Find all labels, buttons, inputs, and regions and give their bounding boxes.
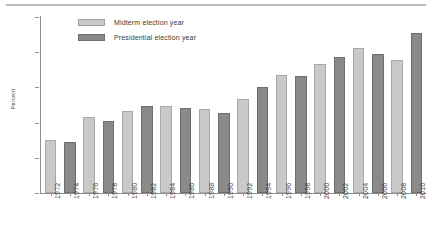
x-tick-mark: [128, 193, 129, 196]
top-divider-rule: [6, 4, 426, 6]
x-tick-label-2004: 2004: [362, 183, 369, 199]
chart-legend: Midterm election year Presidential elect…: [78, 16, 196, 46]
x-tick-label-1988: 1988: [208, 183, 215, 199]
x-tick-mark: [282, 193, 283, 196]
x-tick-label-1978: 1978: [111, 183, 118, 199]
x-tick-mark: [416, 193, 417, 196]
bar-1998: [295, 76, 307, 193]
x-tick-mark: [262, 193, 263, 196]
x-tick-label-2000: 2000: [323, 183, 330, 199]
x-tick-label-2006: 2006: [381, 183, 388, 199]
x-tick-mark: [301, 193, 302, 196]
x-tick-label-1986: 1986: [188, 183, 195, 199]
y-tick-mark: [35, 193, 39, 194]
bar-2004: [353, 48, 365, 193]
legend-label-presidential: Presidential election year: [114, 34, 196, 41]
x-tick-mark: [70, 193, 71, 196]
x-tick-mark: [224, 193, 225, 196]
bar-1980: [122, 111, 134, 193]
y-tick-mark: [35, 123, 39, 124]
x-tick-mark: [205, 193, 206, 196]
x-tick-mark: [185, 193, 186, 196]
y-tick-mark: [35, 17, 39, 18]
x-tick-mark: [243, 193, 244, 196]
x-tick-label-1992: 1992: [246, 183, 253, 199]
x-tick-label-1996: 1996: [285, 183, 292, 199]
x-tick-label-1994: 1994: [265, 183, 272, 199]
x-tick-label-1982: 1982: [150, 183, 157, 199]
x-tick-mark: [320, 193, 321, 196]
x-tick-mark: [359, 193, 360, 196]
bar-1994: [257, 87, 269, 193]
bar-2010: [411, 33, 423, 194]
bar-2006: [372, 54, 384, 193]
x-tick-label-1990: 1990: [227, 183, 234, 199]
bar-1976: [83, 117, 95, 193]
x-tick-mark: [166, 193, 167, 196]
legend-label-midterm: Midterm election year: [114, 19, 184, 26]
bar-1984: [160, 106, 172, 193]
legend-swatch-presidential-icon: [78, 34, 105, 41]
bar-1990: [218, 113, 230, 193]
bar-1982: [141, 106, 153, 193]
x-tick-mark: [339, 193, 340, 196]
bar-1992: [237, 99, 249, 193]
x-tick-label-1976: 1976: [92, 183, 99, 199]
x-tick-mark: [89, 193, 90, 196]
x-tick-mark: [147, 193, 148, 196]
x-tick-mark: [397, 193, 398, 196]
x-tick-label-2002: 2002: [342, 183, 349, 199]
bar-2008: [391, 60, 403, 193]
x-tick-label-1984: 1984: [169, 183, 176, 199]
y-tick-mark: [35, 52, 39, 53]
x-tick-label-2010: 2010: [419, 183, 426, 199]
bar-1986: [180, 108, 192, 193]
bar-2000: [314, 64, 326, 193]
x-tick-label-1980: 1980: [131, 183, 138, 199]
bar-1988: [199, 109, 211, 193]
bar-2002: [334, 57, 346, 193]
y-tick-mark: [35, 158, 39, 159]
x-tick-label-1974: 1974: [73, 183, 80, 199]
chart-figure: Percent 0510152025 197219741976197819801…: [0, 0, 432, 247]
legend-item-midterm: Midterm election year: [78, 16, 196, 28]
x-tick-label-2008: 2008: [400, 183, 407, 199]
x-tick-label-1972: 1972: [54, 183, 61, 199]
x-tick-mark: [51, 193, 52, 196]
legend-item-presidential: Presidential election year: [78, 31, 196, 43]
y-tick-mark: [35, 87, 39, 88]
x-tick-label-1998: 1998: [304, 183, 311, 199]
y-axis-label: Percent: [10, 69, 16, 129]
legend-swatch-midterm-icon: [78, 19, 105, 26]
x-tick-mark: [378, 193, 379, 196]
x-tick-mark: [108, 193, 109, 196]
bar-1996: [276, 75, 288, 193]
